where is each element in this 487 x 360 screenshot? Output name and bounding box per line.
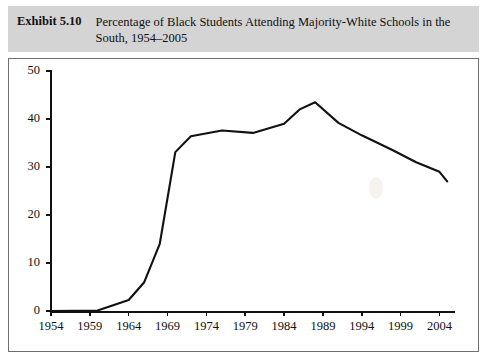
exhibit-page: Exhibit 5.10 Percentage of Black Student… — [0, 0, 487, 360]
exhibit-header: Exhibit 5.10 Percentage of Black Student… — [8, 6, 479, 52]
exhibit-number-label: Exhibit 5.10 — [8, 6, 82, 29]
data-line — [51, 102, 447, 311]
chart-frame: 01020304050 1954195919641969197419791984… — [8, 58, 479, 352]
exhibit-title: Percentage of Black Students Attending M… — [82, 6, 479, 46]
line-series-svg — [9, 59, 480, 353]
